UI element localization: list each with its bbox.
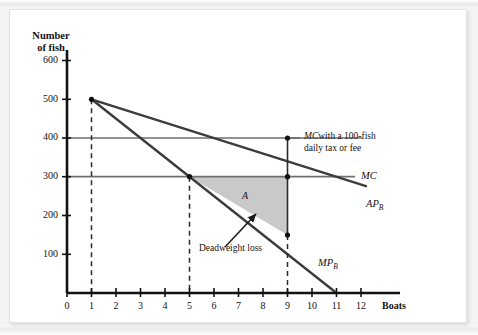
y-tick-label-600: 600 (32, 54, 58, 65)
x-tick-label-2: 2 (111, 300, 121, 311)
x-tick-label-12: 12 (355, 300, 367, 311)
x-axis-title: Boats (382, 300, 406, 311)
x-tick-label-5: 5 (185, 300, 195, 311)
x-tick-label-10: 10 (306, 300, 318, 311)
x-tick-label-11: 11 (331, 300, 343, 311)
y-tick-label-500: 500 (32, 93, 58, 104)
x-tick-label-1: 1 (87, 300, 97, 311)
y-tick-label-200: 200 (32, 209, 58, 220)
y-tick-label-300: 300 (32, 170, 58, 181)
x-tick-label-9: 9 (283, 300, 293, 311)
ap-b-label-sub: B (379, 203, 384, 212)
x-tick-label-4: 4 (160, 300, 170, 311)
mp-b-label-main: MP (318, 257, 333, 268)
mc-with-tax-label-mc: MC (304, 131, 318, 141)
ap-b-label-main: AP (366, 198, 379, 209)
x-tick-label-0: 0 (62, 300, 72, 311)
deadweight-loss-region (190, 177, 288, 235)
deadweight-loss-label: Deadweight loss (199, 243, 262, 255)
y-axis-title-line1: Number (27, 30, 75, 42)
x-tick-label-8: 8 (258, 300, 268, 311)
mp-b-label-sub: B (333, 262, 338, 271)
y-tick-label-100: 100 (32, 248, 58, 259)
y-axis-title-line2: of fish (27, 42, 75, 54)
x-tick-label-7: 7 (234, 300, 244, 311)
figure-root: Number of fish 600 500 400 300 200 100 0… (0, 0, 478, 335)
mc-with-tax-label-rest: with a 100-fish (318, 131, 376, 141)
y-tick-label-400: 400 (32, 131, 58, 142)
x-tick-label-3: 3 (136, 300, 146, 311)
mc-with-tax-label-line2: daily tax or fee (304, 143, 361, 155)
area-a-label: A (242, 190, 248, 201)
x-tick-label-6: 6 (209, 300, 219, 311)
mc-curve-label: MC (361, 170, 377, 181)
mp-b-curve (92, 99, 337, 293)
